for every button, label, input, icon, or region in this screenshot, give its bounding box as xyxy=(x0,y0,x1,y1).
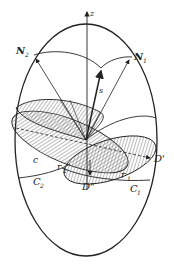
arc-n2-n1 xyxy=(34,52,132,68)
vector-n1 xyxy=(86,60,129,140)
label-d-double-prime: D" xyxy=(81,181,95,192)
label-r2-sub: 2 xyxy=(62,167,67,174)
label-r2: r xyxy=(57,162,62,172)
label-c2-sub: 2 xyxy=(39,182,44,189)
label-n2-sub: 2 xyxy=(24,51,29,58)
label-d-prime: D' xyxy=(153,153,165,164)
label-s: s xyxy=(99,86,103,95)
label-c1-sub: 1 xyxy=(137,189,141,196)
label-n1-sub: 1 xyxy=(143,57,147,64)
label-r1: r xyxy=(121,170,126,180)
ellipsoid-diagram: z N 2 N 1 s c r 2 r 1 D' D" C 2 C 1 xyxy=(0,0,174,270)
label-c: c xyxy=(33,155,38,165)
label-r1-sub: 1 xyxy=(127,175,131,182)
label-z: z xyxy=(89,9,95,18)
